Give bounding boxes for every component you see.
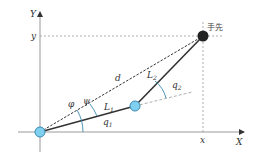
y-coord-label: y: [30, 31, 37, 41]
y-axis-label: Y: [30, 9, 37, 19]
elbow-joint: [130, 101, 140, 111]
phi-label: φ: [68, 99, 75, 109]
x-coord-label: x: [200, 135, 205, 145]
link-1: [40, 106, 135, 132]
x-axis-label: X: [235, 137, 243, 147]
end-effector: [198, 31, 209, 42]
link1-label: L1: [103, 102, 114, 113]
link1-extension: [135, 92, 192, 106]
link-2: [135, 36, 203, 106]
q2-label: q2: [172, 80, 182, 91]
robot-arm-diagram: Y y X x d 手先 L1 L2 q1 q2 φ ψ: [0, 0, 258, 160]
end-effector-label: 手先: [207, 22, 223, 32]
angle-arc-psi: [90, 104, 97, 116]
distance-label: d: [115, 73, 121, 83]
base-joint: [35, 127, 45, 137]
q1-label: q1: [103, 117, 113, 128]
psi-label: ψ: [83, 96, 91, 106]
link2-label: L2: [146, 70, 157, 81]
